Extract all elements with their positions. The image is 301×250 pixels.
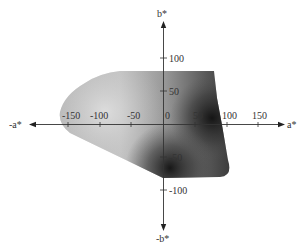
gamut-region — [55, 65, 240, 185]
arrow-left-icon — [29, 122, 36, 127]
x-tick-label: 50 — [193, 110, 203, 121]
arrow-right-icon — [278, 122, 285, 127]
x-tick-label: 150 — [252, 110, 267, 121]
x-tick-label: -150 — [62, 110, 80, 121]
y-tick-label: -100 — [169, 185, 187, 196]
lab-chart: -150 -100 -50 0 50 100 150 100 50 -50 -1… — [0, 0, 301, 250]
y-tick-label: 100 — [169, 53, 184, 64]
axis-label-b-neg: -b* — [156, 233, 169, 244]
x-tick-label: 100 — [222, 110, 237, 121]
arrow-down-icon — [161, 224, 166, 231]
y-tick-label: -50 — [169, 152, 182, 163]
axis-label-b-pos: b* — [157, 8, 167, 19]
x-tick-label: 0 — [165, 110, 170, 121]
x-tick-label: -50 — [127, 110, 140, 121]
axis-label-a-pos: a* — [287, 119, 296, 130]
y-tick-label: 50 — [169, 86, 179, 97]
axis-label-a-neg: -a* — [9, 119, 22, 130]
arrow-up-icon — [161, 21, 166, 28]
x-tick-label: -100 — [90, 110, 108, 121]
